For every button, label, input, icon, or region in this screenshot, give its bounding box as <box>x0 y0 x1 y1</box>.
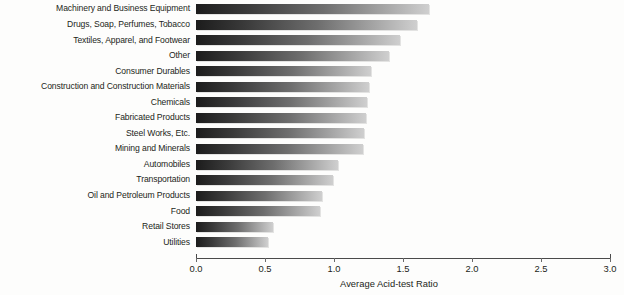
x-axis-tick <box>472 258 473 262</box>
bar-row <box>196 206 610 216</box>
bar-row <box>196 20 610 30</box>
bar-row <box>196 51 610 61</box>
bar-row <box>196 82 610 92</box>
bar-row <box>196 222 610 232</box>
bar-row <box>196 4 610 14</box>
category-label-column: Machinery and Business EquipmentDrugs, S… <box>0 0 190 258</box>
category-label: Drugs, Soap, Perfumes, Tobacco <box>0 19 190 29</box>
category-label: Consumer Durables <box>0 66 190 76</box>
bar <box>196 222 273 232</box>
category-label: Other <box>0 50 190 60</box>
category-label: Transportation <box>0 174 190 184</box>
bar-row <box>196 97 610 107</box>
bar <box>196 206 320 216</box>
x-axis-tick <box>403 258 404 262</box>
x-axis-tick <box>541 258 542 262</box>
x-axis-tick-label: 1.0 <box>327 263 340 274</box>
bar-row <box>196 128 610 138</box>
bar <box>196 20 417 30</box>
category-label: Oil and Petroleum Products <box>0 190 190 200</box>
bar-row <box>196 144 610 154</box>
bar <box>196 66 371 76</box>
bar <box>196 35 400 45</box>
x-axis-tick-label: 2.5 <box>534 263 547 274</box>
category-label: Machinery and Business Equipment <box>0 3 190 13</box>
category-label: Food <box>0 206 190 216</box>
category-label: Textiles, Apparel, and Footwear <box>0 35 190 45</box>
plot-area <box>196 0 610 258</box>
category-label: Construction and Construction Materials <box>0 81 190 91</box>
x-axis-tick <box>334 258 335 262</box>
category-label: Chemicals <box>0 97 190 107</box>
x-axis-tick <box>265 258 266 262</box>
bar <box>196 175 333 185</box>
x-axis-tick <box>610 258 611 262</box>
bar-chart: Machinery and Business EquipmentDrugs, S… <box>0 0 624 295</box>
category-label: Retail Stores <box>0 221 190 231</box>
category-label: Utilities <box>0 237 190 247</box>
bar <box>196 82 369 92</box>
x-axis-tick-label: 0.0 <box>189 263 202 274</box>
category-label: Steel Works, Etc. <box>0 128 190 138</box>
bar-row <box>196 191 610 201</box>
bar <box>196 97 367 107</box>
bar-row <box>196 113 610 123</box>
bar <box>196 4 429 14</box>
x-axis-tick-label: 0.5 <box>258 263 271 274</box>
bar <box>196 160 338 170</box>
category-label: Mining and Minerals <box>0 143 190 153</box>
bar-row <box>196 237 610 247</box>
x-axis-tick <box>196 258 197 262</box>
bar <box>196 113 366 123</box>
x-axis-title-wrap: Average Acid-test Ratio <box>0 278 624 289</box>
category-label: Automobiles <box>0 159 190 169</box>
bar <box>196 51 389 61</box>
x-axis-tick-label: 2.0 <box>465 263 478 274</box>
x-axis-tick-label: 1.5 <box>396 263 409 274</box>
bar-row <box>196 160 610 170</box>
bar-row <box>196 35 610 45</box>
category-label: Fabricated Products <box>0 112 190 122</box>
bar-row <box>196 66 610 76</box>
bar <box>196 191 322 201</box>
x-axis-title: Average Acid-test Ratio <box>340 278 438 289</box>
bar <box>196 128 364 138</box>
bar-row <box>196 175 610 185</box>
bar <box>196 237 268 247</box>
x-axis-tick-label: 3.0 <box>603 263 616 274</box>
bar <box>196 144 363 154</box>
